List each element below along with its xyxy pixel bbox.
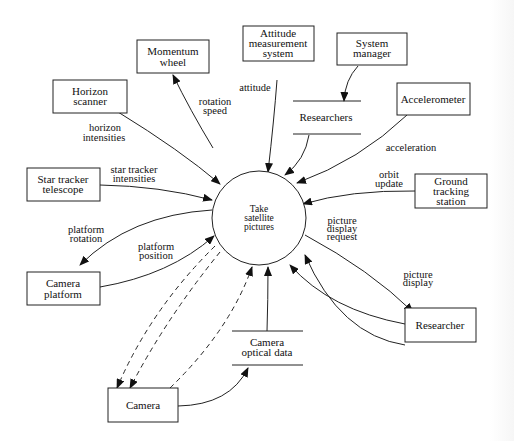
camera-label: Camera: [126, 399, 160, 411]
data-flow-diagram: Take satellite pictures Momentum wheel A…: [0, 0, 514, 441]
flow-shutter-closed: [170, 267, 252, 388]
entity-star-tracker-telescope[interactable]: Star tracker telescope: [27, 168, 100, 201]
label-attitude: attitude: [239, 82, 271, 93]
store-researchers[interactable]: Researchers: [293, 101, 361, 134]
entity-camera-platform[interactable]: Camera platform: [27, 272, 100, 305]
entity-system-manager[interactable]: System manager: [337, 33, 407, 65]
flow-attitude: [268, 80, 277, 172]
researcher-label: Researcher: [416, 319, 465, 331]
star-tracker-label-2: telescope: [43, 183, 84, 195]
entity-camera[interactable]: Camera: [108, 388, 178, 422]
entity-ground-tracking-station[interactable]: Ground tracking station: [415, 174, 487, 208]
process-take-satellite-pictures[interactable]: Take satellite pictures: [212, 171, 306, 265]
attitude-label-3: system: [263, 47, 294, 59]
flow-star-tracker-intensities: [100, 185, 212, 200]
entity-horizon-scanner[interactable]: Horizon scanner: [53, 80, 127, 113]
system-manager-label-2: manager: [353, 47, 391, 59]
entity-attitude-measurement-system[interactable]: Attitude measurement system: [243, 26, 314, 61]
process-label-line-3: pictures: [244, 222, 274, 232]
entity-researcher[interactable]: Researcher: [405, 308, 476, 342]
label-orbit-update-2: update: [375, 178, 403, 189]
label-horizon-intensities-2: intensities: [83, 132, 126, 143]
label-acceleration: acceleration: [386, 142, 437, 153]
optical-data-label-2: optical data: [241, 346, 292, 358]
label-rotation-speed-2: speed: [203, 105, 228, 116]
label-platform-rotation-2: rotation: [70, 233, 103, 244]
flow-open-shutter: [130, 252, 220, 388]
flow-system-manager-to-store: [344, 66, 358, 101]
entity-momentum-wheel[interactable]: Momentum wheel: [137, 40, 209, 73]
researchers-store-label: Researchers: [299, 111, 352, 123]
accelerometer-label: Accelerometer: [401, 93, 466, 105]
camera-platform-label-2: platform: [44, 288, 82, 300]
ground-station-label-3: station: [436, 195, 466, 207]
label-picture-display-request-3: request: [327, 231, 357, 242]
entity-accelerometer[interactable]: Accelerometer: [397, 83, 470, 115]
label-platform-position-2: position: [139, 250, 174, 261]
flow-camera-to-optical-data: [178, 368, 248, 406]
flow-picture-display-request: [305, 255, 405, 345]
flow-picture-taking-request: [290, 265, 405, 324]
horizon-scanner-label-2: scanner: [73, 95, 107, 107]
flow-researchers-store: [285, 135, 309, 175]
flow-picture-display: [305, 235, 413, 312]
label-star-tracker-intensities-2: intensities: [113, 173, 156, 184]
label-picture-display-2: display: [403, 277, 434, 288]
flow-orbit-update: [303, 191, 415, 204]
flow-optical-data-to-process: [267, 267, 268, 331]
store-camera-optical-data[interactable]: Camera optical data: [232, 331, 303, 365]
momentum-wheel-label-2: wheel: [160, 56, 186, 68]
